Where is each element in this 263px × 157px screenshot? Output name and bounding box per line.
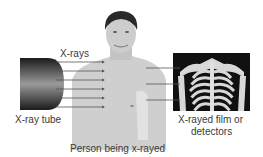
- person-label: Person being x-rayed: [70, 143, 165, 154]
- xray-tube: [20, 58, 64, 110]
- person-navel: [130, 105, 134, 107]
- xrays-label: X-rays: [60, 48, 89, 59]
- film-label-line2: detectors: [191, 126, 232, 137]
- person-eye: [125, 31, 129, 33]
- xray-tube-label: X-ray tube: [15, 114, 61, 125]
- person-torso: [72, 56, 166, 150]
- film-label-line1: X-rayed film or: [178, 114, 243, 125]
- skeleton-spine: [210, 62, 214, 111]
- person-figure: [72, 11, 166, 150]
- person-eye: [113, 31, 117, 33]
- xray-film: [173, 53, 250, 111]
- person-arm-shading: [136, 91, 148, 140]
